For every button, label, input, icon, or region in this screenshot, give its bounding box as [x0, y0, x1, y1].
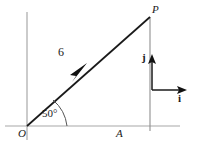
vector-diagram-figure: P O A 6 50° i j [0, 0, 197, 146]
point-p-label: P [152, 4, 159, 15]
angle-label: 50° [42, 108, 57, 119]
basis-vector-j-label: j [142, 52, 146, 63]
vector-magnitude-label: 6 [58, 46, 64, 58]
vector-arrowhead [70, 63, 87, 82]
origin-label: O [18, 128, 26, 139]
basis-vector-i-label: i [178, 93, 181, 104]
diagram-canvas [0, 0, 197, 146]
point-a-label: A [116, 128, 123, 139]
